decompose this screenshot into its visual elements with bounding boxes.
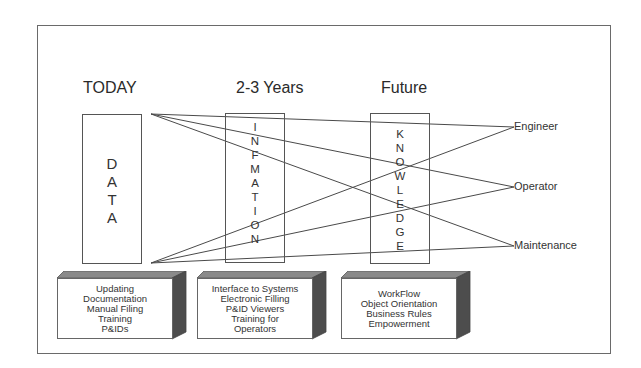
box-line: P&IDs [102, 324, 129, 334]
today-activities-box: Updating Documentation Manual Filing Tra… [57, 271, 187, 340]
information-letters: I N F M A T I O N [226, 120, 284, 246]
letter: O [396, 155, 405, 169]
mid-term-activities-box: Interface to Systems Electronic Filling … [197, 271, 327, 340]
letter: T [107, 191, 116, 209]
future-activities-box: WorkFlow Object Orientation Business Rul… [341, 271, 471, 340]
role-maintenance: Maintenance [514, 239, 577, 251]
letter: I [253, 204, 256, 218]
box-line: Empowerment [368, 319, 429, 329]
letter: F [251, 148, 258, 162]
box-line: Interface to Systems [212, 284, 299, 294]
data-column-box: D A T A [82, 114, 142, 264]
letter: K [396, 127, 404, 141]
future-activities-text: WorkFlow Object Orientation Business Rul… [341, 278, 457, 339]
box-line: Electronic Filling [220, 294, 289, 304]
letter: A [107, 209, 117, 227]
letter: W [395, 169, 406, 183]
heading-today: TODAY [83, 79, 137, 97]
letter: N [396, 141, 404, 155]
letter: A [251, 176, 259, 190]
data-letters: D A T A [83, 155, 141, 227]
box-line: Operators [234, 324, 276, 334]
box-line: WorkFlow [378, 289, 420, 299]
letter: D [107, 155, 118, 173]
heading-future: Future [381, 79, 427, 97]
letter: N [251, 134, 259, 148]
role-engineer: Engineer [514, 120, 558, 132]
letter: O [251, 218, 260, 232]
letter: D [396, 211, 404, 225]
box-line: Training for [231, 314, 279, 324]
box-line: Training [98, 314, 132, 324]
letter: N [251, 232, 259, 246]
box-line: Updating [96, 284, 134, 294]
information-column-box: I N F M A T I O N [225, 113, 285, 263]
box-line: Manual Filing [87, 304, 144, 314]
role-operator: Operator [514, 180, 557, 192]
box-line: P&ID Viewers [226, 304, 284, 314]
letter: E [396, 239, 404, 253]
letter: E [396, 197, 404, 211]
letter: T [251, 190, 258, 204]
heading-2-3-years: 2-3 Years [236, 79, 304, 97]
today-activities-text: Updating Documentation Manual Filing Tra… [57, 278, 173, 339]
mid-term-activities-text: Interface to Systems Electronic Filling … [197, 278, 313, 339]
letter: M [250, 162, 260, 176]
letter: G [396, 225, 405, 239]
box-line: Business Rules [366, 309, 431, 319]
knowledge-column-box: K N O W L E D G E [370, 113, 430, 264]
box-line: Object Orientation [361, 299, 438, 309]
letter: L [397, 183, 403, 197]
letter: I [253, 120, 256, 134]
box-line: Documentation [83, 294, 147, 304]
letter: A [107, 173, 117, 191]
knowledge-letters: K N O W L E D G E [371, 127, 429, 253]
